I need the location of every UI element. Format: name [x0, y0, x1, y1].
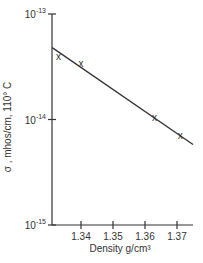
- y-axis-title: σ , mhos/cm, 110° C: [2, 82, 13, 173]
- fit-line: [52, 48, 193, 145]
- data-series: xxxx: [52, 48, 193, 145]
- axes: [52, 14, 193, 225]
- x-tick-label: 1.36: [135, 231, 155, 242]
- x-tick-label: 1.35: [103, 231, 123, 242]
- chart: 10-1310-1410-15 1.341.351.361.37 xxxx De…: [0, 0, 203, 263]
- y-tick-label: 10-14: [25, 113, 46, 126]
- x-ticks: 1.341.351.361.37: [71, 221, 187, 242]
- y-tick-label: 10-13: [25, 7, 46, 20]
- y-ticks: 10-1310-1410-15: [25, 7, 56, 231]
- x-axis-title: Density g/cm³: [89, 243, 151, 254]
- x-tick-label: 1.37: [167, 231, 187, 242]
- x-tick-label: 1.34: [71, 231, 91, 242]
- y-tick-label: 10-15: [25, 218, 46, 231]
